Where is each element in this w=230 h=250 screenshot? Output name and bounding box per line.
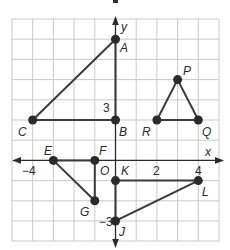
coordinate-plane: y x O −4 2 4 3 −3 A B C P R Q E F bbox=[0, 0, 230, 250]
point-l bbox=[194, 176, 203, 185]
cropped-text-fragment bbox=[113, 0, 118, 3]
point-g bbox=[90, 196, 99, 205]
tick-label-x-2: 2 bbox=[153, 164, 160, 178]
axes bbox=[12, 16, 224, 248]
point-a bbox=[111, 35, 120, 44]
y-axis-down-arrow-icon bbox=[112, 239, 119, 248]
point-r bbox=[152, 116, 161, 125]
x-axis-label: x bbox=[204, 145, 212, 159]
tick-label-y-neg3: −3 bbox=[99, 215, 113, 229]
point-f bbox=[90, 156, 99, 165]
point-b bbox=[111, 116, 120, 125]
point-c bbox=[28, 116, 37, 125]
y-axis-up-arrow-icon bbox=[112, 16, 119, 25]
tick-label-y-3: 3 bbox=[103, 101, 110, 115]
tick-label-x-4: 4 bbox=[195, 164, 202, 178]
label-q: Q bbox=[202, 125, 211, 139]
label-k: K bbox=[121, 164, 130, 178]
label-e: E bbox=[44, 144, 53, 158]
label-p: P bbox=[183, 64, 191, 78]
origin-label: O bbox=[100, 164, 109, 178]
label-b: B bbox=[119, 125, 127, 139]
label-g: G bbox=[80, 205, 89, 219]
point-k bbox=[111, 176, 120, 185]
y-axis-label: y bbox=[120, 20, 128, 34]
label-j: J bbox=[118, 225, 126, 239]
point-p bbox=[173, 75, 182, 84]
label-c: C bbox=[18, 125, 27, 139]
x-axis-left-arrow-icon bbox=[12, 157, 21, 164]
label-r: R bbox=[142, 125, 151, 139]
label-a: A bbox=[119, 41, 128, 55]
label-l: L bbox=[202, 185, 209, 199]
point-q bbox=[194, 116, 203, 125]
tick-label-x-neg4: −4 bbox=[22, 164, 36, 178]
label-f: F bbox=[99, 144, 107, 158]
